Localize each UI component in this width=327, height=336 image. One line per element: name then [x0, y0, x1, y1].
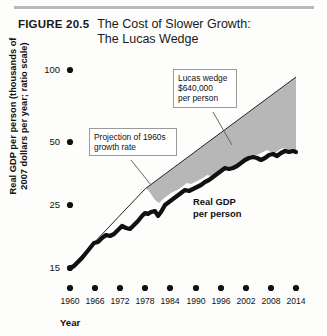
x-axis-title: Year — [60, 317, 80, 328]
x-axis-tick-label-2014: 2014 — [281, 296, 311, 306]
annotation-lucas-wedge-line-3: per person — [178, 93, 232, 103]
ytick-dot-50 — [67, 139, 73, 145]
ytick-dot-100 — [67, 67, 73, 73]
chart-plot-area: Real GDP per person (thousands of 2007 d… — [0, 0, 327, 336]
figure-container: FIGURE 20.5 The Cost of Slower Growth: T… — [0, 0, 327, 336]
annotation-projection: Projection of 1960s growth rate — [89, 128, 177, 156]
annotation-lucas-wedge: Lucas wedge $640,000 per person — [173, 69, 237, 108]
xtick-dot-2002 — [243, 285, 249, 291]
xtick-dot-1960 — [67, 285, 73, 291]
xtick-dot-1996 — [218, 285, 224, 291]
y-axis-tick-label-25: 25 — [26, 199, 60, 210]
y-axis-title: Real GDP per person (thousands of 2007 d… — [8, 21, 30, 211]
y-axis-tick-label-50: 50 — [26, 136, 60, 147]
annotation-lucas-wedge-line-2: $640,000 — [178, 83, 232, 93]
annotation-projection-line-1: Projection of 1960s — [94, 132, 172, 142]
y-axis-tick-label-100: 100 — [26, 64, 60, 75]
annotation-projection-line-2: growth rate — [94, 142, 172, 152]
xtick-dot-1990 — [193, 285, 199, 291]
ytick-dot-25 — [67, 202, 73, 208]
series-label-line-1: Real GDP — [193, 196, 241, 208]
y-axis-title-line-2: 2007 dollars per year; ratio scale) — [19, 21, 30, 211]
series-label-line-2: per person — [193, 208, 241, 220]
ytick-dot-15 — [67, 265, 73, 271]
xtick-dot-1972 — [117, 285, 123, 291]
xtick-dot-1966 — [92, 285, 98, 291]
y-axis-title-line-1: Real GDP per person (thousands of — [8, 21, 19, 211]
xtick-dot-1984 — [167, 285, 173, 291]
y-axis-tick-label-15: 15 — [26, 262, 60, 273]
xtick-dot-2014 — [293, 285, 299, 291]
chart-svg — [0, 0, 327, 336]
xtick-dot-2008 — [268, 285, 274, 291]
projection-leader-line — [131, 160, 151, 185]
annotation-lucas-wedge-line-1: Lucas wedge — [178, 73, 232, 83]
series-label-real-gdp: Real GDP per person — [193, 196, 241, 219]
xtick-dot-1978 — [142, 285, 148, 291]
